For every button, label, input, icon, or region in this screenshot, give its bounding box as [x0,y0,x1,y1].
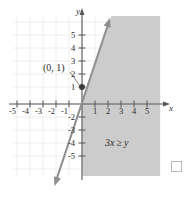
y-tick-label-3: 3 [71,57,75,66]
x-tick-label-4: 4 [132,107,136,116]
y-axis-label: y [76,7,80,16]
inequality-lhs: 3x [105,137,114,148]
y-tick-label--2: -2 [68,113,75,122]
y-tick-label-5: 5 [71,31,75,40]
x-axis-label: x [169,104,173,113]
boundary-line-arrow-bottom [54,176,61,186]
x-tick-label-3: 3 [119,107,123,116]
inequality-operator: ≥ [116,137,122,148]
y-tick-label--5: -5 [68,152,75,161]
x-tick-label-5: 5 [145,107,149,116]
x-tick-label--5: -5 [9,107,16,116]
x-tick-label--3: -3 [35,107,42,116]
x-tick-label-1: 1 [93,107,97,116]
y-tick-label--4: -4 [68,139,75,148]
y-tick-label-4: 4 [71,44,75,53]
inequality-label: 3x≥y [105,138,128,148]
inequality-graph [0,0,187,199]
x-tick-label--2: -2 [48,107,55,116]
y-axis-arrow [80,8,85,15]
y-tick-label--3: -3 [68,126,75,135]
inequality-rhs: y [124,137,128,148]
point-label-0-1: (0, 1) [43,63,65,73]
point-marker-0-1 [79,84,85,90]
corner-checkbox-outline [171,161,182,172]
y-tick-label-2: 2 [71,70,75,79]
x-tick-label-2: 2 [106,107,110,116]
y-tick-label-1: 1 [71,83,75,92]
x-tick-label--4: -4 [22,107,29,116]
